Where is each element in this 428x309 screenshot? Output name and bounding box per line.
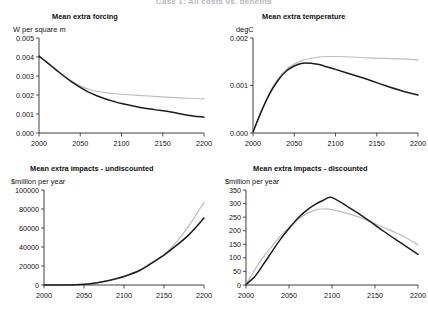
y-tick-label: 300 — [229, 199, 241, 208]
x-tick-label: 2050 — [76, 291, 92, 300]
plot-svg: 020000400006000080000100000 200020502100… — [0, 186, 214, 306]
y-tick-label: 50 — [233, 267, 241, 276]
y-tick-labels: 050100150200250300350 — [229, 186, 241, 290]
y-tick-label: 0.001 — [16, 110, 34, 119]
panel-title: Mean extra temperature — [262, 12, 345, 21]
panel-mean-extra-temperature: Mean extra temperature degC 0.0000.0010.… — [214, 8, 428, 155]
axes — [243, 190, 418, 289]
x-tick-label: 2100 — [324, 291, 340, 300]
x-tick-marks — [253, 133, 418, 137]
plot-svg: 0.0000.0010.002 20002050210021502200 — [214, 34, 428, 154]
plot-svg: 0.0000.0010.0020.0030.0040.005 200020502… — [0, 34, 214, 154]
x-tick-label: 2200 — [410, 291, 426, 300]
y-tick-labels: 0.0000.0010.0020.0030.0040.005 — [16, 34, 34, 138]
x-tick-label: 2150 — [369, 139, 385, 148]
y-tick-label: 0 — [237, 281, 241, 290]
series-dark-path-group — [44, 218, 204, 285]
y-tick-label: 0.002 — [16, 91, 34, 100]
panel-mean-extra-impacts-discounted: Mean extra impacts - discounted $million… — [214, 160, 428, 309]
x-tick-label: 2150 — [155, 139, 171, 148]
x-tick-label: 2050 — [286, 139, 302, 148]
series-light-path — [44, 202, 204, 285]
y-tick-label: 100 — [229, 253, 241, 262]
y-tick-label: 40000 — [19, 243, 39, 252]
x-tick-label: 2200 — [196, 139, 212, 148]
series-dark-path-group — [39, 56, 204, 117]
axes — [41, 190, 204, 289]
panel-mean-extra-forcing: Mean extra forcing W per square m 0.0000… — [0, 8, 214, 155]
clipped-slide-title-text: Case 1: All costs vs. benefits — [0, 0, 428, 6]
y-tick-label: 20000 — [19, 262, 39, 271]
x-tick-label: 2150 — [156, 291, 172, 300]
x-tick-label: 2200 — [410, 139, 426, 148]
y-tick-label: 80000 — [19, 205, 39, 214]
y-tick-label: 100000 — [15, 186, 39, 195]
y-tick-label: 0.002 — [230, 34, 248, 43]
y-tick-label: 0.003 — [16, 72, 34, 81]
series-light-path-group — [44, 202, 204, 285]
y-tick-label: 0 — [35, 281, 39, 290]
x-tick-label: 2100 — [328, 139, 344, 148]
axes — [36, 38, 204, 137]
panel-title: Mean extra impacts - undiscounted — [30, 164, 154, 173]
series-dark-path — [39, 56, 204, 117]
x-tick-label: 2000 — [36, 291, 52, 300]
x-tick-labels: 20002050210021502200 — [36, 291, 212, 300]
x-tick-label: 2100 — [114, 139, 130, 148]
y-tick-labels: 0.0000.0010.002 — [230, 34, 248, 138]
series-light-path-group — [253, 56, 418, 132]
series-light-path-group — [246, 209, 418, 285]
x-tick-label: 2050 — [72, 139, 88, 148]
series-light-path-group — [39, 56, 204, 99]
series-dark-path — [246, 197, 418, 284]
series-dark-path — [44, 218, 204, 285]
y-tick-label: 60000 — [19, 224, 39, 233]
plot-area: 020000400006000080000100000 200020502100… — [0, 186, 214, 306]
y-tick-label: 0.004 — [16, 53, 34, 62]
y-tick-label: 250 — [229, 213, 241, 222]
clipped-slide-title: Case 1: All costs vs. benefits — [0, 0, 428, 7]
x-tick-labels: 20002050210021502200 — [31, 139, 212, 148]
panel-title: Mean extra forcing — [52, 12, 118, 21]
x-tick-label: 2050 — [281, 291, 297, 300]
series-dark-path-group — [253, 63, 418, 132]
plot-svg: 050100150200250300350 200020502100215022… — [214, 186, 428, 306]
x-tick-labels: 20002050210021502200 — [238, 291, 426, 300]
series-light-path — [39, 56, 204, 99]
y-tick-label: 150 — [229, 240, 241, 249]
y-tick-label: 0.000 — [230, 129, 248, 138]
plot-area: 050100150200250300350 200020502100215022… — [214, 186, 428, 306]
x-tick-label: 2200 — [196, 291, 212, 300]
series-light-path — [246, 209, 418, 285]
x-tick-marks — [246, 285, 418, 289]
figure-canvas: Case 1: All costs vs. benefits Mean extr… — [0, 0, 428, 309]
x-tick-label: 2000 — [31, 139, 47, 148]
x-tick-labels: 20002050210021502200 — [245, 139, 426, 148]
x-tick-label: 2100 — [116, 291, 132, 300]
series-light-path — [253, 56, 418, 132]
x-tick-label: 2000 — [238, 291, 254, 300]
axes — [250, 38, 418, 137]
y-tick-label: 0.000 — [16, 129, 34, 138]
y-tick-labels: 020000400006000080000100000 — [15, 186, 39, 290]
series-dark-path — [253, 63, 418, 132]
x-tick-label: 2000 — [245, 139, 261, 148]
series-dark-path-group — [246, 197, 418, 284]
panel-title: Mean extra impacts - discounted — [253, 164, 368, 173]
plot-area: 0.0000.0010.0020.0030.0040.005 200020502… — [0, 34, 214, 154]
y-tick-label: 0.001 — [230, 81, 248, 90]
x-tick-label: 2150 — [367, 291, 383, 300]
y-tick-label: 350 — [229, 186, 241, 195]
y-tick-label: 0.005 — [16, 34, 34, 43]
plot-area: 0.0000.0010.002 20002050210021502200 — [214, 34, 428, 154]
y-tick-label: 200 — [229, 226, 241, 235]
panel-mean-extra-impacts-undiscounted: Mean extra impacts - undiscounted $milli… — [0, 160, 214, 309]
x-tick-marks — [39, 133, 204, 137]
